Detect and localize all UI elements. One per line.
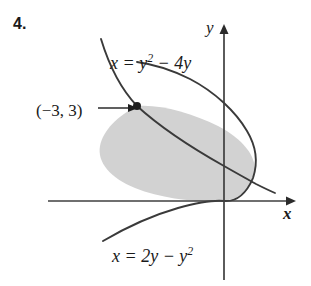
- y-axis-label: y: [206, 19, 214, 36]
- y-axis-arrowhead: [220, 24, 229, 34]
- lower-curve-label-exponent: 2: [187, 244, 193, 258]
- lower-curve-label-main: x = 2y − y: [112, 246, 187, 266]
- problem-number: 4.: [13, 16, 26, 32]
- shaded-region: [100, 106, 255, 202]
- upper-curve-label: x = y2 − 4y: [110, 53, 191, 72]
- textbook-figure: 4. x = y2 − 4y x = 2y − y2 (−3, 3) y x: [0, 0, 311, 286]
- x-axis-label: x: [283, 205, 292, 222]
- lower-curve-label: x = 2y − y2: [112, 246, 193, 265]
- graph-canvas: [0, 0, 311, 286]
- intersection-point-dot: [133, 102, 141, 110]
- upper-curve-label-tail: − 4y: [153, 53, 191, 73]
- intersection-point-label: (−3, 3): [36, 102, 82, 119]
- upper-curve-label-main: x = y: [110, 53, 147, 73]
